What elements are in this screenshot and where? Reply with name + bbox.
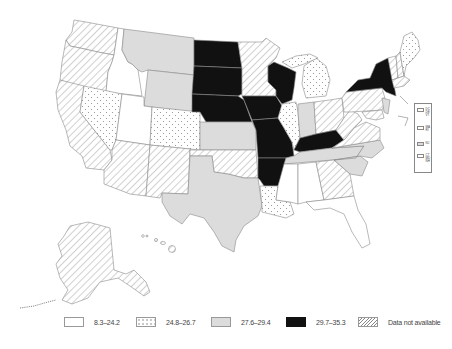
inset-leader (398, 116, 408, 118)
inset-swatch-dotted (417, 154, 424, 158)
state-co (150, 107, 200, 150)
legend-item-not-available: Data not available (358, 314, 440, 330)
inset-legend-small-states: DC DE VT MA RI NJ CT MD NH (414, 103, 432, 173)
state-wy (144, 70, 194, 112)
legend-swatch-black (286, 317, 306, 327)
inset-swatch-white (417, 126, 424, 130)
inset-leader (405, 118, 408, 126)
state-hi (142, 235, 176, 253)
inset-state-label: NH (426, 160, 431, 163)
inset-state-label: VT (426, 114, 431, 117)
inset-swatch-white (417, 108, 424, 112)
state-nj (382, 98, 390, 114)
state-me (400, 32, 420, 76)
legend-label: 8.3–24.2 (94, 319, 120, 326)
legend-swatch-white (64, 317, 84, 327)
state-ak (56, 222, 150, 304)
state-fl (306, 196, 370, 248)
legend-label: Data not available (388, 319, 440, 326)
state-ks (200, 122, 256, 150)
legend-label: 29.7–35.3 (316, 319, 345, 326)
legend-item-range-3: 27.6–29.4 (211, 314, 270, 330)
inset-swatch-gray (417, 142, 424, 146)
us-choropleth-map (0, 0, 452, 349)
legend-label: 24.8–26.7 (166, 319, 195, 326)
state-mi (302, 58, 330, 98)
state-md (362, 110, 384, 120)
inset-row: DC DE VT (417, 108, 431, 118)
inset-row: CT MD NH (417, 154, 431, 164)
legend-item-range-1: 8.3–24.2 (64, 314, 120, 330)
legend-swatch-dotted (136, 317, 156, 327)
alaska-aleutians (20, 300, 56, 308)
legend-label: 27.6–29.4 (241, 319, 270, 326)
legend-swatch-gray (211, 317, 231, 327)
map-legend: 8.3–24.2 24.8–26.7 27.6–29.4 29.7–35.3 D… (64, 314, 444, 332)
inset-row: MA RI (417, 126, 431, 132)
legend-swatch-hatched (358, 317, 378, 327)
inset-state-label: RI (426, 129, 431, 132)
inset-row: NJ (417, 142, 431, 146)
state-nd (194, 40, 242, 68)
legend-item-range-4: 29.7–35.3 (286, 314, 345, 330)
state-sd (192, 66, 242, 96)
inset-state-label: NJ (426, 142, 431, 145)
inset-leader (400, 96, 408, 104)
state-in (298, 102, 316, 138)
legend-item-range-2: 24.8–26.7 (136, 314, 195, 330)
state-nm (146, 145, 190, 198)
